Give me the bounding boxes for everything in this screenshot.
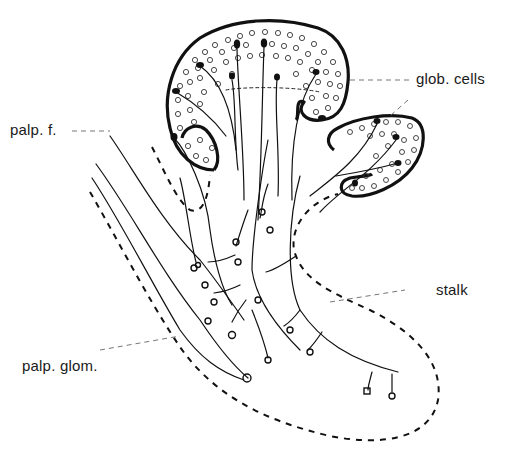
globuli-cells-pattern — [175, 29, 342, 162]
main-calyx — [167, 21, 348, 170]
stalk-fibers — [174, 47, 398, 392]
label-palp-glom: palp. glom. — [22, 357, 98, 374]
palp-fibers — [92, 136, 248, 380]
dashed-outlines — [90, 147, 439, 440]
label-palp-f: palp. f. — [10, 121, 57, 138]
label-glob-cells: glob. cells — [416, 70, 485, 87]
label-stalk: stalk — [436, 281, 468, 298]
